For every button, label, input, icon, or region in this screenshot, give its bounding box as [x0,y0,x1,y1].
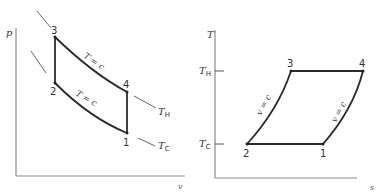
hot-isotherm-label: TH [158,106,170,119]
point-label-3: 3 [51,25,57,36]
hot-isotherm-extension-upper [37,11,51,28]
process-1-2-isothermal [55,83,127,133]
state-point-1 [322,143,325,146]
cold-isotherm-label: TC [158,140,170,153]
point-label-3: 3 [287,58,293,69]
point-label-2: 2 [50,86,56,97]
ts-x-axis-label: s [370,183,374,192]
pv-x-axis-label: v [178,182,183,191]
pv-diagram: p v 3 2 4 1 T = c T = c TH TC [6,11,185,191]
point-label-1: 1 [320,148,326,159]
point-label-2: 2 [243,148,249,159]
tick-label-th: TH [199,65,211,78]
state-point-1 [126,132,129,135]
point-label-1: 1 [123,137,129,148]
tick-label-tc: TC [199,138,211,151]
pv-y-axis-label: p [6,27,13,38]
state-point-4 [362,70,365,73]
cold-isotherm-extension-lower [138,138,155,146]
state-point-3 [290,70,293,73]
cold-isotherm-extension-upper [31,51,46,73]
point-label-4: 4 [123,79,129,90]
stirling-cycle-figure: p v 3 2 4 1 T = c T = c TH TC T s TH TC [0,0,389,194]
ts-diagram: T s TH TC 3 4 2 1 v = c v = c [199,29,374,192]
state-point-2 [54,82,57,85]
state-point-2 [246,143,249,146]
process-2-3-isochoric [247,71,291,144]
lower-isotherm-label: T = c [74,88,99,108]
hot-isotherm-extension-lower [134,96,156,108]
ts-y-axis-label: T [207,29,215,40]
upper-isotherm-label: T = c [82,50,107,71]
point-label-4: 4 [359,58,365,69]
state-point-4 [126,91,129,94]
